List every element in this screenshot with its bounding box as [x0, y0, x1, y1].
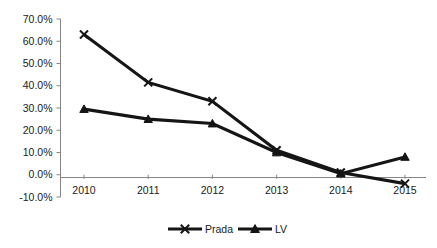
y-tick-label: 70.0%	[23, 13, 53, 25]
line-chart: 70.0%60.0%50.0%40.0%30.0%20.0%10.0%0.0%-…	[0, 0, 437, 248]
y-tick-label: 40.0%	[23, 79, 53, 91]
x-tick-label: 2011	[137, 184, 160, 196]
legend-label: Prada	[205, 223, 233, 235]
y-tick-label: -10.0%	[19, 191, 52, 203]
chart-container: 70.0%60.0%50.0%40.0%30.0%20.0%10.0%0.0%-…	[0, 0, 437, 248]
x-tick-label: 2015	[393, 184, 417, 196]
y-tick-label: 0.0%	[29, 168, 53, 180]
y-tick-label: 10.0%	[23, 146, 53, 158]
y-tick-label: 50.0%	[23, 57, 53, 69]
chart-background	[0, 0, 437, 248]
x-tick-label: 2014	[329, 184, 353, 196]
legend-label: LV	[275, 223, 287, 235]
x-tick-label: 2010	[72, 184, 96, 196]
x-tick-label: 2012	[201, 184, 225, 196]
y-tick-label: 60.0%	[23, 35, 53, 47]
y-tick-label: 20.0%	[23, 124, 53, 136]
x-tick-label: 2013	[265, 184, 289, 196]
y-tick-label: 30.0%	[23, 102, 53, 114]
